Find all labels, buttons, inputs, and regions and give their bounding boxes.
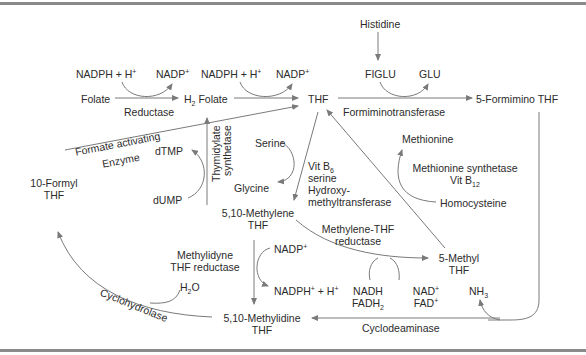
figlu-glu-curve — [380, 82, 428, 97]
enzyme-reductase: Reductase — [124, 106, 174, 118]
enzyme-cyclodeaminase: Cyclodeaminase — [362, 322, 440, 334]
nadph-nadp-curve-1 — [122, 82, 172, 97]
node-h2-folate: H2 Folate — [184, 93, 228, 105]
enzyme-methylidyne-thf-reductase: Methylidyne THF reductase — [170, 249, 239, 273]
node-5-10-methylene-thf: 5,10-MethyleneTHF — [222, 207, 294, 231]
node-nadp-3: NADP+ — [274, 243, 307, 255]
enzyme-methionine-synthetase: Methionine synthetase Vit B12 — [412, 162, 517, 186]
enzyme-serine-hydroxymethyltransferase: Vit B6 serine Hydroxy- methyltransferase — [308, 160, 391, 208]
nadph-nadp-curve-2 — [240, 82, 292, 97]
node-5-formimino-thf: 5-Formimino THF — [476, 93, 558, 105]
node-thf: THF — [308, 93, 328, 105]
node-dtmp: dTMP — [155, 145, 183, 157]
node-nadh-fadh2: NADHFADH2 — [352, 285, 384, 309]
node-nadph-h-1: NADPH + H+ — [76, 68, 136, 80]
nadp-nadph-curve-3 — [257, 248, 270, 286]
node-homocysteine: Homocysteine — [440, 197, 507, 209]
node-nadp-1: NADP+ — [156, 68, 189, 80]
node-methionine: Methionine — [402, 133, 453, 145]
h2o-curve — [150, 290, 180, 303]
node-5-methyl-thf: 5-MethylTHF — [439, 252, 479, 276]
node-nh3: NH3 — [469, 285, 488, 297]
node-folate: Folate — [81, 93, 110, 105]
nadh-nad-curve — [369, 258, 399, 280]
node-nadph-h-3: NADPH+ + H+ — [274, 285, 339, 297]
node-10-formyl-thf: 10-FormylTHF — [30, 177, 77, 201]
nh3-curve — [480, 300, 500, 320]
node-glycine: Glycine — [234, 182, 269, 194]
node-nad-fad: NAD+FAD+ — [413, 285, 439, 309]
node-serine: Serine — [255, 137, 285, 149]
node-dump: dUMP — [153, 194, 182, 206]
node-glu: GLU — [419, 68, 441, 80]
enzyme-methylene-thf-reductase: Methylene-THF reductase — [322, 223, 394, 247]
enzyme-thymidylate-synthetase: synthetase — [221, 125, 233, 176]
dump-dtmp-curve — [188, 150, 204, 198]
node-5-10-methylidine-thf: 5,10-MethylidineTHF — [223, 312, 300, 336]
node-histidine: Histidine — [360, 18, 400, 30]
node-nadp-2: NADP+ — [276, 68, 309, 80]
node-h2o: H2O — [180, 281, 200, 293]
node-nadph-h-2: NADPH + H+ — [201, 68, 261, 80]
formimino-down-line — [488, 112, 539, 320]
node-figlu: FIGLU — [365, 68, 396, 80]
enzyme-formiminotransferase: Formiminotransferase — [343, 106, 445, 118]
